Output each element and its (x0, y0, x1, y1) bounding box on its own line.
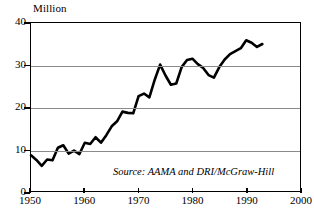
x-tick-label-1950: 1950 (10, 195, 50, 206)
x-tick-mark-1980 (192, 188, 194, 193)
x-tick-mark-1950 (29, 188, 31, 193)
gridline-30 (31, 66, 300, 67)
y-tick-label-40: 40 (2, 16, 26, 27)
x-tick-label-2000: 2000 (281, 195, 314, 206)
x-tick-label-1990: 1990 (227, 195, 267, 206)
y-tick-mark-40 (24, 22, 30, 24)
x-tick-mark-1970 (138, 188, 140, 193)
x-tick-label-1980: 1980 (173, 195, 213, 206)
gridline-10 (31, 151, 300, 152)
y-tick-label-30: 30 (2, 59, 26, 70)
x-tick-mark-1960 (83, 188, 85, 193)
y-axis-tick-labels: 010203040 (0, 0, 26, 218)
x-tick-mark-1990 (246, 188, 248, 193)
chart-container: Million 010203040 Source: AAMA and DRI/M… (0, 0, 314, 218)
x-tick-label-1960: 1960 (64, 195, 104, 206)
y-tick-mark-10 (24, 150, 30, 152)
y-tick-label-20: 20 (2, 101, 26, 112)
x-tick-mark-2000 (300, 188, 302, 193)
y-tick-mark-20 (24, 107, 30, 109)
x-tick-label-1970: 1970 (118, 195, 158, 206)
y-tick-label-10: 10 (2, 144, 26, 155)
y-tick-mark-30 (24, 65, 30, 67)
source-annotation: Source: AAMA and DRI/McGraw-Hill (113, 166, 274, 178)
y-axis-unit-label: Million (33, 2, 67, 15)
gridline-20 (31, 108, 300, 109)
